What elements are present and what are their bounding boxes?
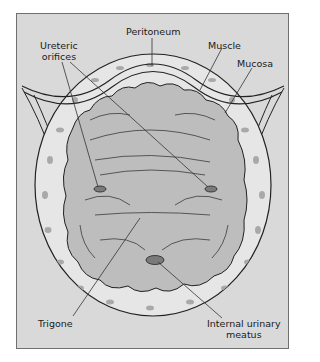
label-meatus-line2: meatus xyxy=(207,329,281,340)
label-ureteric-line1: Ureteric xyxy=(40,40,78,51)
label-peritoneum: Peritoneum xyxy=(126,26,180,37)
label-internal-urinary-meatus: Internal urinary meatus xyxy=(207,318,281,340)
label-muscle: Muscle xyxy=(208,40,241,51)
label-meatus-line1: Internal urinary xyxy=(207,318,281,329)
internal-urinary-meatus-opening xyxy=(146,256,164,265)
label-ureteric-line2: orifices xyxy=(40,51,78,62)
label-mucosa: Mucosa xyxy=(237,58,273,69)
label-trigone: Trigone xyxy=(38,318,73,329)
left-ureteric-orifice xyxy=(94,186,106,192)
label-ureteric-orifices: Ureteric orifices xyxy=(40,40,78,62)
right-ureteric-orifice xyxy=(205,186,217,192)
